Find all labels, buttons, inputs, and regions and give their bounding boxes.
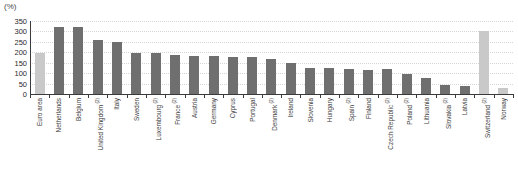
x-axis-label: Lithuania — [423, 98, 430, 124]
bar — [228, 57, 238, 94]
bar-slot — [281, 21, 300, 94]
x-axis-label: Ireland — [287, 98, 294, 118]
bar-series — [30, 21, 513, 94]
x-axis-label: Slovakia (2) — [442, 98, 452, 129]
x-axis-label: Spain (2) — [345, 98, 355, 121]
bar-slot — [416, 21, 435, 94]
bar-slot — [300, 21, 319, 94]
bar — [305, 68, 315, 94]
x-axis-label-footnote: (2) — [95, 98, 100, 105]
x-axis-label: Denmark (2) — [268, 98, 278, 131]
y-axis-line — [30, 21, 31, 94]
chart-root: (%) 350300250200150100500 Euro areaNethe… — [0, 0, 518, 171]
y-tick-label-300: 300 — [1, 27, 27, 36]
x-axis-label: Portugal — [249, 98, 256, 122]
bar — [112, 42, 122, 94]
x-axis-label: Czech Republic (2) — [384, 98, 394, 150]
bar — [382, 69, 392, 94]
x-axis-label: Austria — [191, 98, 198, 118]
bar — [421, 78, 431, 94]
x-axis-label-footnote: (2) — [172, 98, 177, 105]
bar-slot — [204, 21, 223, 94]
bar — [286, 63, 296, 94]
x-axis-label: France (2) — [171, 98, 181, 125]
bar-slot — [494, 21, 513, 94]
bar-slot — [30, 21, 49, 94]
bar — [266, 59, 276, 94]
x-axis-label: Italy — [113, 98, 120, 110]
bar-slot — [358, 21, 377, 94]
bar-slot — [474, 21, 493, 94]
x-axis-label: Belgium — [75, 98, 82, 121]
x-axis-label: Switzerland (2) — [481, 98, 491, 138]
bar-slot — [262, 21, 281, 94]
x-axis-label: Finland — [365, 98, 372, 119]
x-axis-label: Slovenia — [307, 98, 314, 123]
x-axis-label: United Kingdom (2) — [94, 98, 104, 150]
x-axis-label-footnote: (2) — [385, 98, 390, 105]
x-axis-label: Luxembourg (2) — [152, 98, 162, 140]
x-axis-label: Latvia — [461, 98, 468, 115]
y-tick-label-350: 350 — [1, 17, 27, 26]
bar — [479, 31, 489, 94]
bar — [460, 86, 470, 94]
x-axis-label: Netherlands — [55, 98, 62, 132]
bar — [402, 74, 412, 94]
bar-slot — [455, 21, 474, 94]
bar-slot — [88, 21, 107, 94]
x-axis-labels: Euro areaNetherlandsBelgiumUnited Kingdo… — [30, 98, 513, 170]
y-tick-label-150: 150 — [1, 58, 27, 67]
bar — [151, 53, 161, 94]
x-axis-label: Hungary — [326, 98, 333, 122]
bar-slot — [165, 21, 184, 94]
bar-slot — [378, 21, 397, 94]
bar-slot — [127, 21, 146, 94]
bar — [54, 27, 64, 94]
y-tick-label-100: 100 — [1, 69, 27, 78]
bar-slot — [185, 21, 204, 94]
y-axis-unit-label: (%) — [4, 2, 16, 11]
x-axis-label-footnote: (2) — [269, 98, 274, 105]
bar — [344, 69, 354, 94]
bar-slot — [49, 21, 68, 94]
x-axis-label-footnote: (2) — [482, 98, 487, 105]
bar — [93, 40, 103, 94]
bar-slot — [397, 21, 416, 94]
bar-slot — [146, 21, 165, 94]
bar — [209, 56, 219, 94]
bar — [35, 53, 45, 94]
x-axis-label-footnote: (2) — [153, 98, 158, 105]
y-tick-label-50: 50 — [1, 79, 27, 88]
bar-slot — [339, 21, 358, 94]
bar — [73, 27, 83, 94]
bar — [363, 70, 373, 94]
bar — [131, 53, 141, 95]
bar — [170, 55, 180, 94]
bar — [324, 68, 334, 94]
x-tick-mark — [513, 94, 514, 98]
y-tick-label-200: 200 — [1, 48, 27, 57]
x-axis-label: Cyprus — [229, 98, 236, 118]
x-axis-label-footnote: (2) — [346, 98, 351, 105]
bar — [247, 57, 257, 94]
y-tick-label-0: 0 — [1, 90, 27, 99]
x-axis-label: Sweden — [133, 98, 140, 121]
bar-slot — [69, 21, 88, 94]
bar-slot — [243, 21, 262, 94]
x-axis-label: Germany — [210, 98, 217, 124]
x-axis-label-footnote: (2) — [443, 98, 448, 105]
y-tick-label-250: 250 — [1, 37, 27, 46]
bar-slot — [107, 21, 126, 94]
bar — [189, 56, 199, 94]
x-axis-label: Poland (2) — [403, 98, 413, 125]
bar-slot — [223, 21, 242, 94]
x-axis-label: Norway — [500, 98, 507, 120]
x-axis-label-footnote: (2) — [404, 98, 409, 105]
bar-slot — [436, 21, 455, 94]
bar — [440, 85, 450, 94]
bar-slot — [320, 21, 339, 94]
x-axis-label: Euro area — [36, 98, 43, 126]
